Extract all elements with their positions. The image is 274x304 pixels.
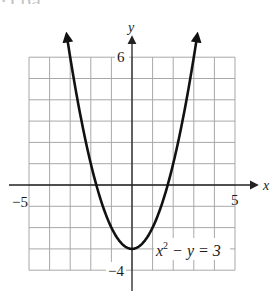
y-axis-label: y [126, 20, 135, 35]
tick-label-x-min: −5 [12, 194, 28, 210]
axis-labels: x y 6 −5 5 −4 x2 − y = 3 [12, 20, 270, 279]
tick-label-y-max: 6 [117, 49, 125, 65]
tick-label-x-max: 5 [231, 192, 239, 208]
graph-figure: x y 6 −5 5 −4 x2 − y = 3 [0, 0, 274, 304]
x-axis-label: x [262, 178, 270, 193]
tick-label-y-min: −4 [108, 263, 124, 279]
